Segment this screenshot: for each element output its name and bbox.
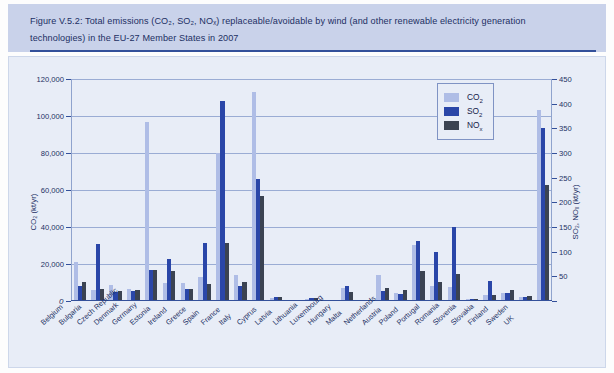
caption-underline bbox=[30, 50, 596, 52]
bar bbox=[438, 282, 442, 301]
bar-group bbox=[356, 79, 374, 301]
bar bbox=[385, 288, 389, 301]
y-axis-title-left: CO₂ (kt/yr) bbox=[29, 194, 38, 231]
legend-label-so2: SO2 bbox=[467, 106, 482, 118]
legend-swatch-nox-icon bbox=[444, 121, 459, 130]
right-tick-mark bbox=[552, 252, 557, 253]
left-tick-label: 120,000 bbox=[37, 75, 64, 84]
bar-group bbox=[267, 79, 285, 301]
bar bbox=[242, 282, 246, 301]
bar-group bbox=[124, 79, 142, 301]
bar bbox=[456, 274, 460, 301]
left-tick-label: 100,000 bbox=[37, 112, 64, 121]
right-tick-label: 200 bbox=[559, 198, 572, 207]
right-tick-label: 350 bbox=[559, 124, 572, 133]
bar-group bbox=[71, 79, 89, 301]
bar-group bbox=[303, 79, 321, 301]
right-tick-label: 300 bbox=[559, 149, 572, 158]
bar-group bbox=[392, 79, 410, 301]
y-axis-title-right: SO₂, NOₓ (kt/yr) bbox=[571, 185, 580, 240]
right-tick-mark bbox=[552, 276, 557, 277]
caption-line-2: technologies) in the EU-27 Member States… bbox=[30, 33, 239, 43]
bar-group bbox=[516, 79, 534, 301]
bar bbox=[260, 196, 264, 301]
bar-group bbox=[107, 79, 125, 301]
legend-item-nox: NOx bbox=[444, 120, 483, 132]
figure-caption: Figure V.5.2: Total emissions (CO₂, SO₂,… bbox=[30, 13, 596, 46]
left-tick-label: 40,000 bbox=[41, 223, 64, 232]
left-tick-label: 20,000 bbox=[41, 260, 64, 269]
bar-group bbox=[231, 79, 249, 301]
caption-line-1: Figure V.5.2: Total emissions (CO₂, SO₂,… bbox=[30, 16, 526, 26]
legend-item-so2: SO2 bbox=[444, 106, 483, 118]
bar-group bbox=[499, 79, 517, 301]
legend-label-co2: CO2 bbox=[467, 92, 483, 104]
right-tick-label: 100 bbox=[559, 247, 572, 256]
legend-swatch-so2-icon bbox=[444, 107, 459, 116]
bar bbox=[225, 243, 229, 301]
bar bbox=[207, 284, 211, 301]
figure-caption-band: Figure V.5.2: Total emissions (CO₂, SO₂,… bbox=[8, 4, 606, 52]
left-tick-mark bbox=[66, 301, 71, 302]
bar-group bbox=[534, 79, 552, 301]
bar-group bbox=[409, 79, 427, 301]
figure-root: Figure V.5.2: Total emissions (CO₂, SO₂,… bbox=[0, 0, 614, 373]
bar bbox=[420, 271, 424, 301]
bar-group bbox=[374, 79, 392, 301]
legend-item-co2: CO2 bbox=[444, 92, 483, 104]
bar-group bbox=[320, 79, 338, 301]
right-tick-mark bbox=[552, 104, 557, 105]
bar-group bbox=[160, 79, 178, 301]
bar-group bbox=[178, 79, 196, 301]
chart-legend: CO2 SO2 NOx bbox=[437, 83, 494, 140]
legend-swatch-co2-icon bbox=[444, 93, 459, 102]
right-tick-mark bbox=[552, 202, 557, 203]
bar-group bbox=[196, 79, 214, 301]
right-tick-mark bbox=[552, 227, 557, 228]
chart-frame: CO₂ (kt/yr) SO₂, NOₓ (kt/yr) 0 20,00040,… bbox=[8, 56, 606, 368]
bar-group bbox=[249, 79, 267, 301]
bar-group bbox=[338, 79, 356, 301]
right-tick-mark bbox=[552, 301, 557, 302]
bar bbox=[153, 270, 157, 301]
right-tick-mark bbox=[552, 178, 557, 179]
category-labels: BelgiumBulgariaCzech RepublicDenmarkGerm… bbox=[71, 303, 552, 365]
left-tick-label: 60,000 bbox=[41, 186, 64, 195]
right-tick-label: 150 bbox=[559, 223, 572, 232]
left-tick-label: 80,000 bbox=[41, 149, 64, 158]
bar-group bbox=[142, 79, 160, 301]
right-tick-label: 50 bbox=[559, 272, 567, 281]
right-tick-mark bbox=[552, 79, 557, 80]
bar-group bbox=[89, 79, 107, 301]
bar bbox=[82, 282, 86, 301]
right-tick-mark bbox=[552, 128, 557, 129]
right-tick-label: 400 bbox=[559, 99, 572, 108]
right-tick-label: 450 bbox=[559, 75, 572, 84]
right-tick-label: 250 bbox=[559, 173, 572, 182]
bar-group bbox=[285, 79, 303, 301]
bar-group bbox=[214, 79, 232, 301]
legend-label-nox: NOx bbox=[467, 120, 483, 132]
bar bbox=[545, 185, 549, 301]
right-tick-mark bbox=[552, 153, 557, 154]
bar bbox=[171, 271, 175, 301]
